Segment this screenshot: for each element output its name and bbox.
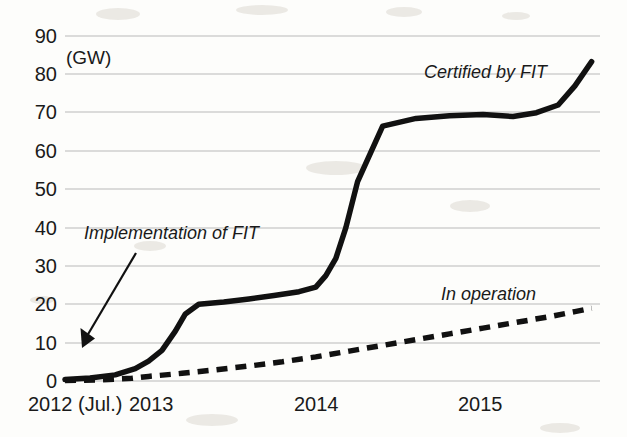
annotation-label-implementation-of-fit: Implementation of FIT: [84, 223, 261, 243]
x-tick-2013: 2013: [129, 393, 174, 415]
y-tick-90: 90: [35, 25, 57, 47]
y-tick-10: 10: [35, 332, 57, 354]
x-tick-2014: 2014: [294, 393, 339, 415]
y-tick-0: 0: [46, 370, 57, 392]
y-axis-unit-label: (GW): [66, 47, 111, 68]
y-tick-20: 20: [35, 293, 57, 315]
y-tick-30: 30: [35, 255, 57, 277]
x-tick-2012: 2012 (Jul.): [28, 393, 123, 415]
line-chart: 90 80 70 60 50 40 30 20 10 0 (GW) 2012 (…: [0, 0, 627, 437]
y-tick-70: 70: [35, 101, 57, 123]
y-tick-50: 50: [35, 178, 57, 200]
y-tick-40: 40: [35, 217, 57, 239]
y-tick-60: 60: [35, 140, 57, 162]
series-label-in-operation: In operation: [441, 284, 536, 304]
x-tick-2015: 2015: [458, 393, 503, 415]
y-tick-80: 80: [35, 63, 57, 85]
chart-container: 90 80 70 60 50 40 30 20 10 0 (GW) 2012 (…: [0, 0, 627, 437]
series-label-certified-by-fit: Certified by FIT: [424, 62, 549, 82]
